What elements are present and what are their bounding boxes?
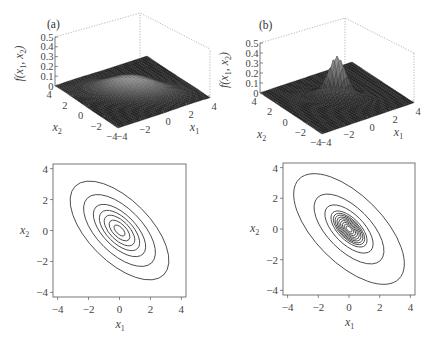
- x2-tick-label: 2: [62, 100, 67, 111]
- y-axis-label: x2: [19, 223, 29, 239]
- panel-label: (a): [47, 18, 60, 31]
- contour-line: [53, 164, 185, 296]
- x2-axis-label: x2: [256, 127, 266, 143]
- y-tick-label: 0: [273, 223, 279, 235]
- box-top-edges: [260, 18, 414, 53]
- contour-line: [99, 210, 140, 251]
- x1-axis-label: x1: [393, 125, 403, 141]
- x1-tick-label: 2: [392, 114, 397, 125]
- x1-tick-label: 0: [165, 116, 170, 127]
- x1-tick-label: −4: [320, 137, 332, 148]
- z-tick-label: 0.2: [245, 68, 258, 79]
- z-tick-label: 0.5: [245, 38, 258, 49]
- y-tick-label: 2: [43, 194, 49, 206]
- z-tick-label: 0.5: [40, 32, 53, 43]
- x-axis-label: x1: [344, 315, 354, 331]
- x1-tick-label: −2: [139, 124, 150, 135]
- x2-tick-label: 2: [267, 106, 272, 117]
- x-tick-label: −4: [282, 301, 294, 313]
- contour-plot-a: −4−2024−4−2024x1x2: [19, 163, 186, 333]
- contour-line: [85, 196, 155, 266]
- y-tick-label: −4: [266, 284, 278, 296]
- x-tick-label: 0: [117, 303, 123, 315]
- contour-lines: [275, 155, 423, 303]
- x-tick-label: 2: [377, 301, 383, 313]
- z-tick-label: 0.4: [40, 41, 54, 52]
- x2-tick-label: −2: [295, 127, 306, 138]
- y-tick-label: 4: [273, 162, 279, 174]
- z-tick-label: 0.1: [40, 71, 53, 82]
- contour-line: [106, 217, 134, 245]
- x2-axis-label: x2: [52, 120, 62, 136]
- x-tick-label: −2: [83, 303, 95, 315]
- x-tick-label: 2: [148, 303, 154, 315]
- figure: 00.10.20.30.40.5420−2−4−4−2024x2x1f(x1, …: [0, 0, 431, 337]
- contour-line: [92, 203, 146, 257]
- x-tick-label: 0: [346, 301, 352, 313]
- x-tick-label: −4: [52, 303, 64, 315]
- contour-line: [275, 155, 423, 303]
- contour-line: [331, 211, 368, 248]
- y-tick-label: 4: [43, 163, 49, 175]
- contour-line: [71, 182, 167, 278]
- x1-axis-label: x1: [189, 120, 199, 136]
- x1-tick-label: 0: [369, 122, 374, 133]
- z-tick-label: 0.3: [245, 58, 258, 69]
- z-tick-label: 0.1: [245, 78, 258, 89]
- plot-frame: [283, 163, 415, 295]
- x-tick-label: 4: [179, 303, 185, 315]
- z-tick-label: 0.2: [40, 61, 53, 72]
- contour-line: [325, 205, 373, 253]
- z-axis-label: f(x1, x2): [217, 52, 233, 88]
- contour-lines: [53, 164, 185, 296]
- contour-line: [112, 223, 127, 238]
- x-tick-label: −2: [312, 301, 324, 313]
- surface-plot-b: 00.10.20.30.40.5420−2−4−4−2024x2x1f(x1, …: [217, 18, 421, 148]
- box-top-edges: [55, 13, 210, 49]
- z-tick-label: 0.3: [40, 51, 53, 62]
- x-tick-label: 4: [408, 301, 414, 313]
- y-tick-label: 0: [43, 225, 49, 237]
- contour-line: [302, 182, 395, 275]
- x1-tick-label: 4: [211, 101, 217, 112]
- x1-tick-label: 4: [415, 106, 421, 117]
- z-axis-label: f(x1, x2): [12, 46, 28, 82]
- panel-label: (b): [259, 19, 273, 32]
- x2-tick-label: 0: [78, 110, 83, 121]
- x1-tick-label: −2: [343, 129, 354, 140]
- x2-tick-label: −2: [91, 121, 102, 132]
- x1-tick-label: −4: [116, 131, 128, 142]
- x2-tick-label: 0: [282, 117, 287, 128]
- plot-frame: [53, 164, 186, 297]
- x2-tick-label: 4: [46, 89, 52, 100]
- y-tick-label: −4: [36, 286, 48, 298]
- y-axis-label: x2: [249, 221, 259, 237]
- z-tick-label: 0.4: [245, 48, 259, 59]
- surface-plot-a: 00.10.20.30.40.5420−2−4−4−2024x2x1f(x1, …: [12, 13, 217, 142]
- contour-line: [317, 197, 381, 261]
- y-tick-label: −2: [36, 255, 48, 267]
- y-tick-label: −2: [266, 254, 278, 266]
- contour-plot-b: −4−2024−4−2024x1x2: [249, 155, 423, 331]
- y-tick-label: 2: [273, 192, 279, 204]
- x2-tick-label: 4: [251, 96, 257, 107]
- x-axis-label: x1: [115, 317, 125, 333]
- x1-tick-label: 2: [188, 109, 193, 120]
